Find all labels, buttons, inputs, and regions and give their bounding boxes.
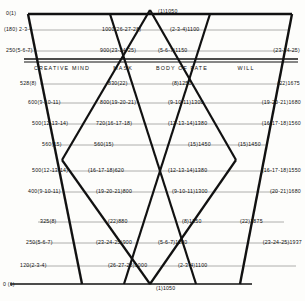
label-row7-right-inner: (12-13-14)1380 [168,168,207,173]
label-row6-left-outer: 560(15) [42,142,62,147]
label-origin-top: 0(1) [6,11,16,16]
label-row1-left-outer: (180) 2-3-4 [4,27,32,32]
label-row6-left-inner: 560(15) [94,142,114,147]
label-row5-left-inner: 720(16-17-18) [96,121,132,126]
label-row4-right-inner: (9-10-11)1300 [168,100,204,105]
label-row9-right-inner: (8)1250 [182,219,202,224]
label-row10-left-outer: 250(5-6-7) [26,240,53,245]
label-row1-right-inner: (2-3-4)1100 [170,27,199,32]
label-origin-bottom: 0 (1) [3,282,15,287]
label-row2-left-inner: 900(23-24-25) [100,48,136,53]
column-header-will: WILL [238,66,255,71]
header-separator [24,59,298,62]
label-row9-left-inner: (22)880 [108,219,128,224]
label-row8-right-inner: (9-10-11)1300 [172,189,208,194]
label-row5-right-outer: (16-17-18)1560 [262,121,301,126]
label-row6-right-inner: (15)1450 [188,142,211,147]
label-row10-right-inner: (5-6-7)1180 [158,240,187,245]
label-row9-right-outer: (22)1875 [240,219,263,224]
label-row3-right-outer: (22)1675 [277,81,300,86]
label-row3-left-inner: 830(22) [108,81,128,86]
label-row9-left-outer: 325(8) [40,219,57,224]
column-header-body-of-fate: BODY OF FATE [156,66,208,71]
label-row11-left-outer: 120(2-3-4) [20,263,47,268]
label-row8-right-outer: (20-21)1680 [270,189,301,194]
label-row3-left-outer: 528(8) [20,81,37,86]
label-row11-left-inner: (26-27-28)1000 [108,263,147,268]
label-row7-right-outer: (16-17-18)1550 [262,168,301,173]
label-row7-left-inner: (16-17-18)620 [88,168,124,173]
label-apex-bottom: (1)1050 [156,286,175,291]
label-row5-right-inner: (12-13-14)1380 [168,121,207,126]
label-row4-left-outer: 600(9-10-11) [28,100,61,105]
label-row7-left-outer: 500(12-13-14) [32,168,68,173]
label-row10-right-outer: (23-24-25)1937 [263,240,302,245]
label-row1-left-inner: 1000(26-27-28) [102,27,141,32]
label-row3-right-inner: (8)1250 [172,81,192,86]
label-row4-right-outer: (19-20-21)1680 [262,100,301,105]
label-row10-left-inner: (23-24-25)900 [96,240,132,245]
label-row8-left-inner: (19-20-21)800 [96,189,132,194]
label-apex-top: (1)1050 [158,9,178,14]
label-row4-left-inner: 800(19-20-21) [100,100,136,105]
column-header-creative-mind: CREATIVE MIND [34,66,90,71]
gyre-linework [0,0,305,301]
label-row2-left-outer: 250(5-6-7) [6,48,33,53]
column-header-mask: MASK [113,66,133,71]
gyre-diagram-canvas: 0(1) (1)1050 (180) 2-3-4 1000(26-27-28) … [0,0,305,301]
label-row8-left-outer: 400(9-10-11) [28,189,61,194]
label-row11-right-inner: (2-3-4)1100 [178,263,207,268]
label-row2-right-outer: (23-24-25) [273,48,300,53]
label-row2-right-inner: (5-6-7)1150 [158,48,187,53]
label-row6-right-outer: (15)1450 [238,142,261,147]
label-row5-left-outer: 500(12-13-14) [32,121,68,126]
